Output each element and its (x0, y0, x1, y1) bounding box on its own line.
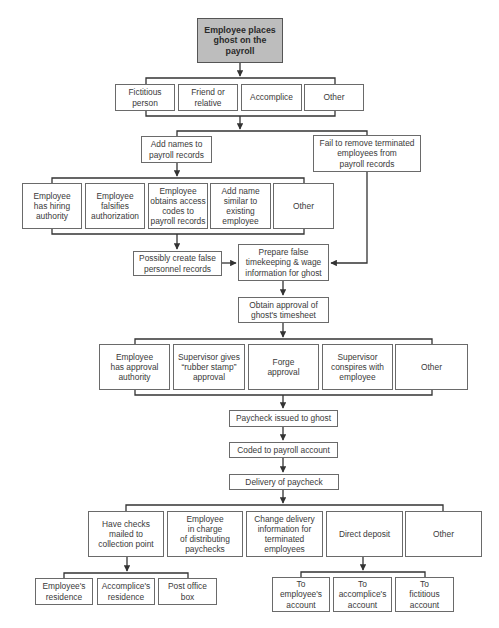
approval-employee-authority: Employee has approval authority (99, 344, 170, 390)
method-access-codes: Employee obtains access codes to payroll… (148, 183, 208, 229)
collection-accomplice-residence: Accomplice's residence (97, 578, 155, 605)
method-falsifies-authorization: Employee falsifies authorization (85, 183, 145, 229)
delivery-paycheck-node: Delivery of paycheck (229, 474, 339, 490)
delivery-mailed-collection: Have checks mailed to collection point (88, 511, 164, 557)
approval-forge: Forge approval (248, 344, 319, 390)
prepare-false-timekeeping-node: Prepare false timekeeping & wage informa… (238, 244, 329, 281)
delivery-change-info: Change delivery information for terminat… (246, 511, 323, 557)
ghost-employee-flowchart: Employee places ghost on the payroll Fic… (0, 0, 499, 628)
identity-other: Other (304, 84, 364, 111)
method-hiring-authority: Employee has hiring authority (22, 183, 82, 229)
identity-fictitious-person: Fictitious person (115, 84, 175, 111)
obtain-approval-node: Obtain approval of ghost's timesheet (238, 297, 329, 323)
method-similar-name: Add name similar to existing employee (210, 183, 271, 229)
identity-friend-or-relative: Friend or relative (178, 84, 238, 111)
collection-po-box: Post office box (158, 578, 217, 605)
root-node-ghost-on-payroll: Employee places ghost on the payroll (197, 18, 283, 63)
delivery-employee-distributes: Employee in charge of distributing paych… (167, 511, 243, 557)
coded-payroll-node: Coded to payroll account (229, 442, 338, 458)
deposit-fictitious-account: To fictitious account (395, 577, 454, 612)
identity-accomplice: Accomplice (241, 84, 302, 111)
delivery-other: Other (405, 511, 482, 557)
method-other: Other (273, 183, 334, 229)
approval-rubber-stamp: Supervisor gives “rubber stamp” approval (173, 344, 245, 390)
add-names-node: Add names to payroll records (141, 136, 212, 163)
approval-other: Other (395, 344, 468, 390)
paycheck-issued-node: Paycheck issued to ghost (229, 410, 338, 427)
fail-remove-node: Fail to remove terminated employees from… (313, 135, 421, 172)
collection-employee-residence: Employee's residence (35, 578, 93, 605)
deposit-accomplice-account: To accomplice's account (333, 577, 392, 612)
deposit-employee-account: To employee's account (272, 577, 330, 612)
delivery-direct-deposit: Direct deposit (326, 511, 403, 557)
possibly-create-records-node: Possibly create false personnel records (133, 251, 222, 276)
approval-supervisor-conspires: Supervisor conspires with employee (322, 344, 393, 390)
